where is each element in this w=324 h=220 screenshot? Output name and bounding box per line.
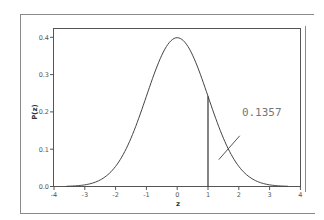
x-axis: -4-3-2-101234 bbox=[51, 187, 303, 200]
x-tick-label: 2 bbox=[237, 191, 241, 199]
annotation-pointer bbox=[219, 136, 240, 160]
y-tick-label: 0.2 bbox=[39, 108, 49, 116]
x-tick-label: -3 bbox=[82, 191, 88, 199]
x-tick-label: 4 bbox=[298, 191, 302, 199]
x-tick-label: 1 bbox=[206, 191, 210, 199]
y-tick-label: 0.3 bbox=[39, 71, 49, 79]
x-tick-label: 0 bbox=[175, 191, 179, 199]
x-tick-label: 3 bbox=[268, 191, 272, 199]
y-axis-title: P(z) bbox=[31, 104, 39, 120]
tail-area-label: 0.1357 bbox=[242, 106, 282, 119]
x-axis-title: z bbox=[176, 200, 180, 208]
y-tick-label: 0.1 bbox=[39, 146, 49, 154]
y-tick-label: 0.0 bbox=[39, 183, 49, 191]
x-tick-label: -4 bbox=[51, 191, 57, 199]
y-axis: 0.00.10.20.30.4 bbox=[39, 34, 54, 191]
normal-distribution-chart: 0.00.10.20.30.4 -4-3-2-101234 0.1357 z P… bbox=[0, 0, 324, 220]
y-tick-label: 0.4 bbox=[39, 34, 49, 42]
x-tick-label: -1 bbox=[143, 191, 149, 199]
x-tick-label: -2 bbox=[112, 191, 118, 199]
